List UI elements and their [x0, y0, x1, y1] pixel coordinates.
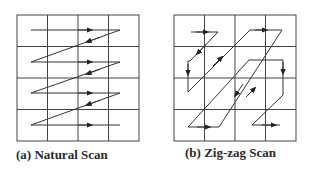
caption-zigzag-scan: (b) Zig-zag Scan	[185, 145, 276, 161]
caption-natural-scan: (a) Natural Scan	[16, 147, 108, 163]
natural-scan-grid	[17, 15, 139, 141]
